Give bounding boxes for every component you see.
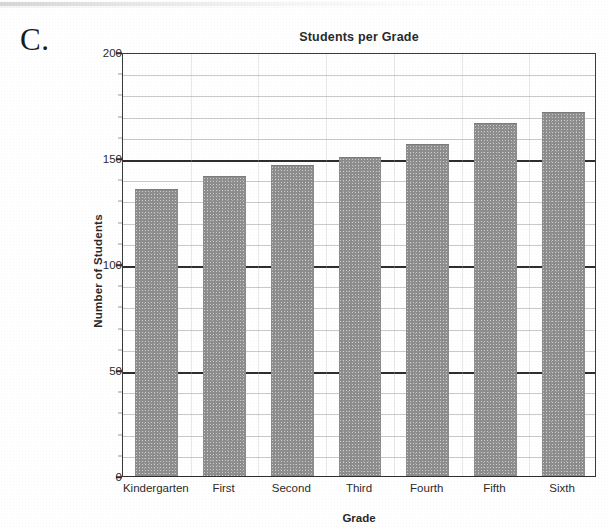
y-axis-minor-tick-mark — [118, 434, 122, 435]
y-axis-tick-mark — [116, 158, 122, 160]
chart-title: Students per Grade — [122, 30, 596, 44]
y-axis-minor-tick-mark — [118, 328, 122, 329]
x-axis-tick-label: Third — [346, 482, 372, 494]
y-axis-minor-tick-mark — [118, 180, 122, 181]
y-axis-minor-tick-mark — [118, 349, 122, 350]
y-axis-minor-tick-mark — [118, 455, 122, 456]
y-axis-tick-mark — [116, 52, 122, 54]
x-axis-title: Grade — [122, 512, 596, 524]
x-axis-tick-label: Kindergarten — [123, 482, 189, 494]
y-axis-minor-tick-mark — [118, 286, 122, 287]
x-axis-tick-label: Fifth — [483, 482, 505, 494]
y-axis: 050100150200 Number of Students — [60, 53, 122, 477]
x-axis-tick-label: Second — [272, 482, 311, 494]
bar — [339, 157, 382, 476]
y-axis-minor-tick-mark — [118, 392, 122, 393]
y-axis-minor-tick-mark — [118, 201, 122, 202]
bar-chart: Students per Grade 050100150200 Number o… — [0, 0, 610, 527]
bar — [406, 144, 449, 476]
y-axis-minor-tick-mark — [118, 95, 122, 96]
y-axis-minor-tick-mark — [118, 74, 122, 75]
x-axis-tick-label: Sixth — [549, 482, 575, 494]
bar — [271, 165, 314, 476]
y-axis-title: Number of Students — [92, 191, 104, 351]
y-axis-minor-tick-mark — [118, 307, 122, 308]
plot-area — [122, 53, 596, 477]
x-axis-tick-label: First — [212, 482, 234, 494]
bar — [474, 123, 517, 476]
y-axis-minor-tick-mark — [118, 243, 122, 244]
bar-series — [123, 54, 595, 476]
y-axis-tick-mark — [116, 264, 122, 266]
bar — [203, 176, 246, 476]
y-axis-minor-tick-mark — [118, 413, 122, 414]
bar — [542, 112, 585, 476]
x-axis-tick-label: Fourth — [410, 482, 443, 494]
y-axis-minor-tick-mark — [118, 137, 122, 138]
y-axis-minor-tick-mark — [118, 116, 122, 117]
y-axis-tick-mark — [116, 476, 122, 478]
y-axis-minor-tick-mark — [118, 222, 122, 223]
y-axis-tick-mark — [116, 370, 122, 372]
bar — [135, 189, 178, 476]
